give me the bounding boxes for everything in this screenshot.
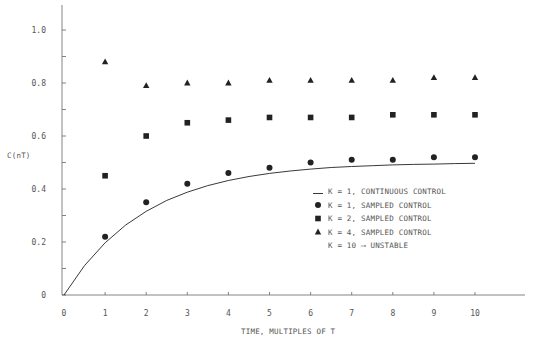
- square-data-point: [267, 115, 273, 121]
- triangle-data-point: [102, 58, 108, 64]
- y-tick-label: 0.6: [32, 132, 47, 141]
- square-data-point: [226, 117, 232, 123]
- circle-data-point: [472, 154, 478, 160]
- x-tick-label: 10: [470, 309, 480, 318]
- x-tick-label: 0: [62, 309, 67, 318]
- x-tick-label: 1: [103, 309, 108, 318]
- square-data-point: [472, 112, 478, 118]
- triangle-data-point: [472, 74, 478, 80]
- circle-data-point: [349, 157, 355, 163]
- x-tick-label: 3: [185, 309, 190, 318]
- legend-label: K = 10 ⟶ UNSTABLE: [328, 241, 408, 250]
- square-data-point: [143, 133, 149, 139]
- circle-data-point: [431, 154, 437, 160]
- triangle-data-point: [143, 82, 149, 88]
- y-tick-label: 0.2: [32, 238, 47, 247]
- x-tick-label: 2: [144, 309, 149, 318]
- x-tick-label: 7: [349, 309, 354, 318]
- square-data-point: [308, 115, 314, 121]
- circle-data-point: [390, 157, 396, 163]
- x-tick-label: 9: [431, 309, 436, 318]
- circle-data-point: [184, 181, 190, 187]
- legend-label: K = 1, SAMPLED CONTROL: [328, 201, 432, 210]
- triangle-data-point: [431, 74, 437, 80]
- y-tick-label: 1.0: [32, 26, 47, 35]
- legend-square-icon: [315, 216, 321, 222]
- legend-circle-icon: [315, 202, 321, 208]
- legend-triangle-icon: [315, 229, 321, 235]
- circle-data-point: [102, 234, 108, 240]
- x-tick-label: 8: [390, 309, 395, 318]
- x-tick-label: 4: [226, 309, 231, 318]
- triangle-data-point: [266, 77, 272, 83]
- square-data-point: [349, 115, 355, 121]
- legend-label: K = 4, SAMPLED CONTROL: [328, 228, 432, 237]
- y-tick-label: 0.4: [32, 185, 47, 194]
- square-data-point: [431, 112, 437, 118]
- square-data-point: [102, 173, 108, 179]
- triangle-data-point: [184, 80, 190, 86]
- legend: K = 1, CONTINUOUS CONTROLK = 1, SAMPLED …: [313, 187, 446, 250]
- x-tick-label: 6: [308, 309, 313, 318]
- square-data-point: [390, 112, 396, 118]
- legend-label: K = 1, CONTINUOUS CONTROL: [328, 187, 446, 196]
- triangle-data-point: [390, 77, 396, 83]
- y-tick-label: 0: [41, 291, 46, 300]
- step-response-chart: 00.20.40.60.81.0012345678910 C(nT) TIME,…: [0, 0, 533, 343]
- triangle-data-point: [225, 80, 231, 86]
- circle-data-point: [143, 199, 149, 205]
- triangle-data-point: [349, 77, 355, 83]
- square-data-point: [185, 120, 191, 126]
- circle-data-point: [267, 165, 273, 171]
- chart-canvas: 00.20.40.60.81.0012345678910 C(nT) TIME,…: [0, 0, 533, 343]
- legend-label: K = 2, SAMPLED CONTROL: [328, 214, 432, 223]
- axes: 00.20.40.60.81.0012345678910: [32, 5, 525, 318]
- plot-area: [64, 58, 478, 295]
- x-tick-label: 5: [267, 309, 272, 318]
- triangle-data-point: [307, 77, 313, 83]
- circle-data-point: [308, 160, 314, 166]
- x-axis-title: TIME, MULTIPLES OF T: [241, 327, 336, 336]
- y-axis-title: C(nT): [7, 151, 31, 160]
- y-tick-label: 0.8: [32, 79, 47, 88]
- circle-data-point: [225, 170, 231, 176]
